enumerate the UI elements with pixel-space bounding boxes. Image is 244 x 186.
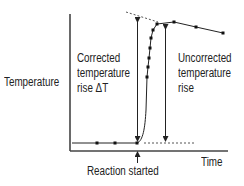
cooling-extrapolation <box>126 12 158 22</box>
corrected-label-line1: Corrected <box>77 51 120 65</box>
y-axis-label: Temperature <box>4 75 59 89</box>
x-axis-label: Time <box>201 155 223 169</box>
data-points <box>96 21 225 145</box>
corrected-label-line3: rise ΔT <box>77 81 108 95</box>
uncorrected-label-line1: Uncorrected <box>178 51 232 65</box>
reaction-started-label: Reaction started <box>87 164 159 178</box>
corrected-label-line2: temperature <box>77 66 130 80</box>
uncorrected-label-line2: temperature <box>178 66 231 80</box>
uncorrected-label-line3: rise <box>178 81 194 95</box>
